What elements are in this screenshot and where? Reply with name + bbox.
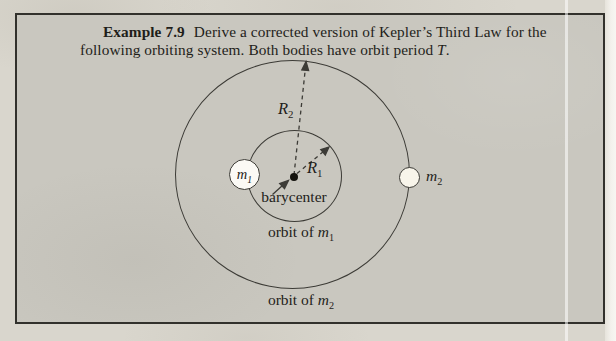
r2-arrowhead-icon <box>302 62 309 71</box>
r2-radius-dashed-line <box>294 70 305 175</box>
mass-m2-body <box>399 167 420 188</box>
orbit-of-m1-label: orbit of m1 <box>268 223 334 241</box>
barycenter-label: barycenter <box>261 188 326 206</box>
m2-label: m2 <box>426 167 442 185</box>
r2-label: R2 <box>278 99 294 119</box>
r1-arrowhead-icon <box>321 147 329 155</box>
barycenter-dot <box>290 173 298 181</box>
m1-symbol: m1 <box>237 166 252 183</box>
r1-label: R1 <box>307 158 323 178</box>
orbit-of-m2-label: orbit of m2 <box>268 291 334 309</box>
mass-m1-body: m1 <box>229 159 260 190</box>
scan-crease-artifact <box>565 0 568 341</box>
scanned-textbook-page: { "example": { "label": "Example 7.9", "… <box>0 0 616 341</box>
